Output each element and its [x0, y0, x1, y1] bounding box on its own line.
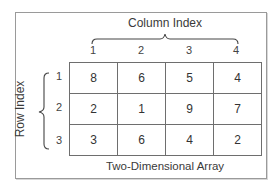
array-cell: 4 — [214, 63, 262, 94]
array-cell: 8 — [70, 63, 118, 94]
array-cell: 7 — [214, 94, 262, 125]
array-cell: 3 — [70, 125, 118, 156]
array-cell: 4 — [166, 125, 214, 156]
array-cell: 1 — [118, 94, 166, 125]
column-label-2: 2 — [131, 44, 151, 56]
row-index-title: Row Index — [13, 79, 27, 139]
row-label-1: 1 — [53, 70, 65, 82]
array-cell: 6 — [118, 125, 166, 156]
array-cell: 9 — [166, 94, 214, 125]
column-brace-icon — [90, 33, 240, 45]
array-cell: 5 — [166, 63, 214, 94]
array-cell: 6 — [118, 63, 166, 94]
array-row-2: 2 1 9 7 — [70, 94, 262, 125]
array-row-3: 3 6 4 2 — [70, 125, 262, 156]
row-label-3: 3 — [53, 134, 65, 146]
array-row-1: 8 6 5 4 — [70, 63, 262, 94]
row-label-2: 2 — [53, 101, 65, 113]
array-cell: 2 — [214, 125, 262, 156]
column-index-title: Column Index — [120, 16, 210, 30]
row-brace-icon — [38, 71, 50, 151]
diagram-caption: Two-Dimensional Array — [100, 160, 230, 172]
column-label-1: 1 — [83, 44, 103, 56]
array-grid: 8 6 5 4 2 1 9 7 3 6 4 2 — [69, 62, 262, 156]
column-label-3: 3 — [179, 44, 199, 56]
array-cell: 2 — [70, 94, 118, 125]
column-label-4: 4 — [226, 44, 246, 56]
